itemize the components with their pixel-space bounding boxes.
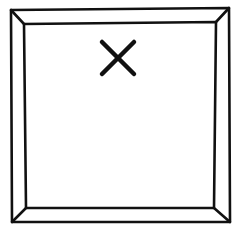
bevel-line-bottom-left [12, 208, 26, 222]
bevel-line-top-left [11, 10, 24, 24]
x-mark-icon [102, 42, 134, 74]
outer-square [11, 8, 230, 222]
inner-square [24, 22, 216, 208]
bevel-line-bottom-right [214, 208, 230, 222]
beveled-frame [11, 8, 230, 222]
diagram-canvas [0, 0, 238, 230]
bevel-line-top-right [216, 8, 229, 22]
